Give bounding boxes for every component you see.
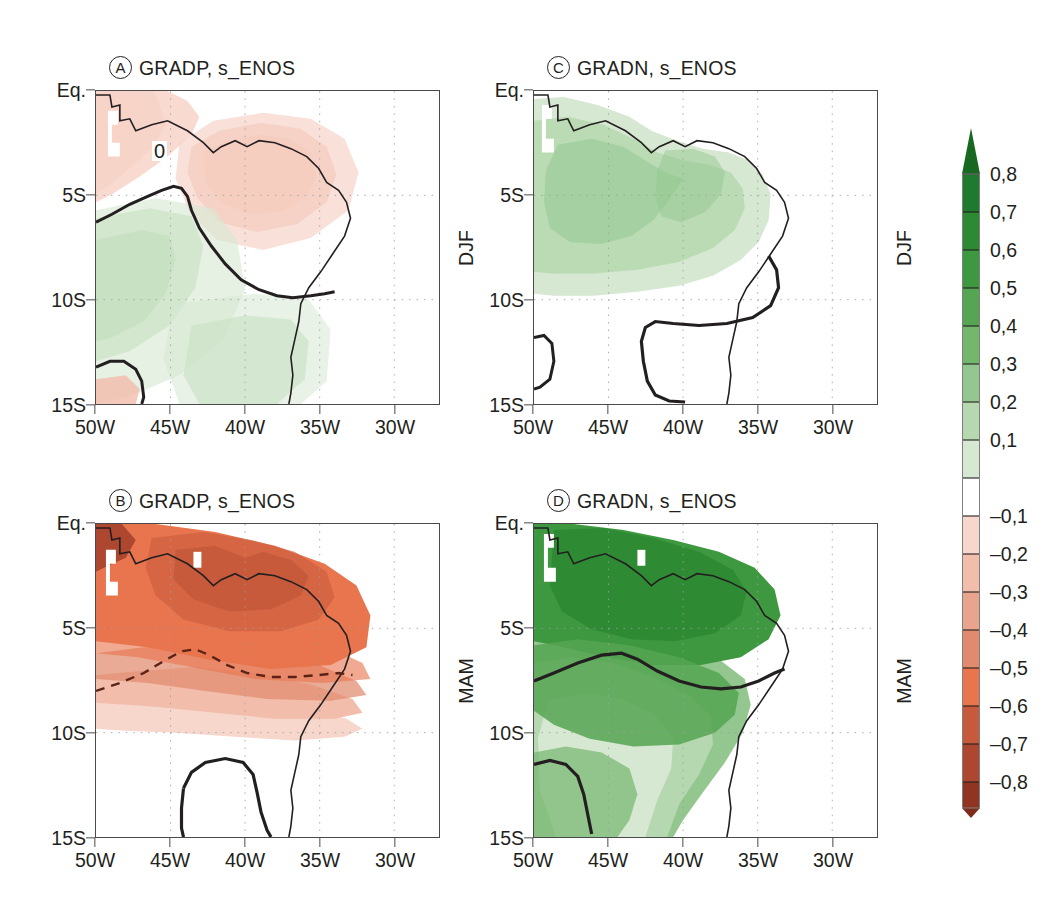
panel-c-title: CGRADN, s_ENOS [547, 56, 737, 80]
panel-c-xtick-40w: 40W [663, 416, 703, 439]
panel-a-contour-label-zero: 0 [152, 141, 167, 161]
panel-a-ytick-10s: 10S [51, 289, 86, 312]
colorbar-label-4: 0,4 [990, 315, 1017, 338]
panel-b-title-text: GRADP, s_ENOS [139, 490, 295, 512]
colorbar-label-13: –0,6 [990, 695, 1028, 718]
panel-d-xtick-30w: 30W [813, 849, 853, 872]
colorbar-label-12: –0,5 [990, 657, 1028, 680]
panel-c-xtick-45w: 45W [588, 416, 628, 439]
figure-panel-grid: AGRADP, s_ENOS [0, 0, 1063, 906]
panel-c-plot-frame [533, 90, 878, 405]
panel-c-xtick-50w: 50W [513, 416, 553, 439]
panel-d-season-label: MAM [893, 658, 916, 704]
panel-d-title: DGRADN, s_ENOS [547, 489, 737, 513]
panel-d-xtick-35w: 35W [738, 849, 778, 872]
panel-b-title: BGRADP, s_ENOS [109, 489, 295, 513]
panel-b-ytick-eq: Eq. [57, 512, 86, 535]
panel-c-ytick-eq: Eq. [495, 79, 524, 102]
panel-d-ytick-15s: 15S [489, 827, 524, 850]
panel-a-map [96, 91, 439, 404]
panel-a-ytick-5s: 5S [62, 184, 86, 207]
panel-a-season-label: DJF [455, 230, 478, 266]
panel-b-plot-frame [95, 523, 440, 838]
panel-c-map [534, 91, 877, 404]
colorbar-label-3: 0,5 [990, 277, 1017, 300]
panel-c-ytick-10s: 10S [489, 289, 524, 312]
colorbar: 0,8 0,7 0,6 0,5 0,4 0,3 0,2 0,1 –0,1 –0,… [962, 128, 1062, 818]
panel-b-ytick-10s: 10S [51, 722, 86, 745]
panel-d-xtick-45w: 45W [588, 849, 628, 872]
panel-b-map [96, 524, 439, 837]
panel-d-ytick-10s: 10S [489, 722, 524, 745]
colorbar-label-10: –0,3 [990, 581, 1028, 604]
panel-a-plot-frame: 0 [95, 90, 440, 405]
colorbar-label-1: 0,7 [990, 201, 1017, 224]
panel-b-xtick-40w: 40W [225, 849, 265, 872]
panel-a-xtick-45w: 45W [150, 416, 190, 439]
colorbar-label-9: –0,2 [990, 543, 1028, 566]
colorbar-label-11: –0,4 [990, 619, 1028, 642]
colorbar-label-0: 0,8 [990, 163, 1017, 186]
panel-b-season-label: MAM [455, 658, 478, 704]
panel-b-xtick-45w: 45W [150, 849, 190, 872]
panel-a-title: AGRADP, s_ENOS [109, 56, 295, 80]
panel-d-plot-frame [533, 523, 878, 838]
panel-b-ytick-15s: 15S [51, 827, 86, 850]
panel-c: CGRADN, s_ENOS [533, 90, 878, 405]
colorbar-label-14: –0,7 [990, 733, 1028, 756]
panel-a-ytick-eq: Eq. [57, 79, 86, 102]
colorbar-label-8: –0,1 [990, 505, 1028, 528]
panel-c-ytick-15s: 15S [489, 394, 524, 417]
panel-b-ytick-5s: 5S [62, 617, 86, 640]
panel-a-title-text: GRADP, s_ENOS [139, 57, 295, 79]
panel-a-badge: A [109, 56, 132, 79]
colorbar-swatches [962, 128, 982, 818]
panel-d-xtick-40w: 40W [663, 849, 703, 872]
panel-a-xtick-35w: 35W [300, 416, 340, 439]
panel-c-ytick-5s: 5S [500, 184, 524, 207]
panel-b-xtick-50w: 50W [75, 849, 115, 872]
panel-a-xtick-40w: 40W [225, 416, 265, 439]
panel-a-ytick-15s: 15S [51, 394, 86, 417]
panel-d-badge: D [547, 489, 570, 512]
panel-c-badge: C [547, 56, 570, 79]
colorbar-label-5: 0,3 [990, 353, 1017, 376]
panel-c-xtick-30w: 30W [813, 416, 853, 439]
panel-a-xtick-30w: 30W [375, 416, 415, 439]
panel-d-ytick-eq: Eq. [495, 512, 524, 535]
panel-c-xtick-35w: 35W [738, 416, 778, 439]
panel-d-xtick-50w: 50W [513, 849, 553, 872]
panel-d: DGRADN, s_ENOS [533, 523, 878, 838]
panel-b-xtick-35w: 35W [300, 849, 340, 872]
panel-d-map [534, 524, 877, 837]
colorbar-label-6: 0,2 [990, 391, 1017, 414]
panel-b-xtick-30w: 30W [375, 849, 415, 872]
panel-c-title-text: GRADN, s_ENOS [577, 57, 737, 79]
panel-b-badge: B [109, 489, 132, 512]
panel-d-title-text: GRADN, s_ENOS [577, 490, 737, 512]
panel-a: AGRADP, s_ENOS [95, 90, 440, 405]
panel-d-ytick-5s: 5S [500, 617, 524, 640]
colorbar-label-15: –0,8 [990, 771, 1028, 794]
panel-c-season-label: DJF [893, 230, 916, 266]
panel-a-xtick-50w: 50W [75, 416, 115, 439]
colorbar-label-7: 0,1 [990, 429, 1017, 452]
colorbar-label-2: 0,6 [990, 239, 1017, 262]
panel-b: BGRADP, s_ENOS [95, 523, 440, 838]
